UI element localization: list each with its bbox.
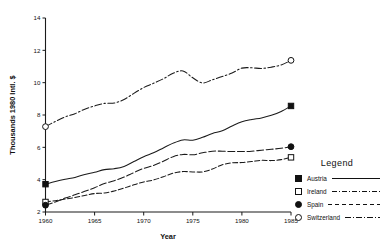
x-tick-label: 1970 xyxy=(137,217,151,224)
y-tick-label: 12 xyxy=(34,47,41,54)
chart-axes xyxy=(46,18,292,212)
legend-item-switzerland[interactable]: Switzerland xyxy=(294,211,380,224)
marker-austria-end xyxy=(288,103,293,108)
y-axis-title: Thousands 1980 Intl. $ xyxy=(8,75,17,154)
y-tick-label: 4 xyxy=(37,176,41,183)
marker-switzerland-start xyxy=(43,124,49,130)
chart-container: 2468101214 196019651970197519801985 Thou… xyxy=(0,0,380,245)
open-circle-icon xyxy=(295,214,302,221)
filled-square-icon xyxy=(295,175,302,182)
y-tick-label: 6 xyxy=(37,144,41,151)
y-tick-label: 2 xyxy=(37,208,41,215)
filled-circle-icon xyxy=(295,201,302,208)
legend-marker-icon xyxy=(294,188,303,195)
legend-line-sample xyxy=(332,178,380,179)
series-line-switzerland xyxy=(46,60,292,126)
marker-switzerland-end xyxy=(288,57,294,63)
legend-item-label: Spain xyxy=(307,201,323,208)
marker-austria-start xyxy=(43,181,48,186)
legend-marker-icon xyxy=(294,175,303,182)
y-tick-label: 14 xyxy=(34,14,41,21)
marker-ireland-end xyxy=(288,155,293,160)
x-tick-label: 1980 xyxy=(235,217,249,224)
x-axis-title: Year xyxy=(160,232,176,241)
legend-item-ireland[interactable]: Ireland xyxy=(294,185,380,198)
legend-marker-icon xyxy=(294,214,303,221)
marker-spain-start xyxy=(43,202,49,208)
legend-title: Legend xyxy=(294,158,380,168)
series-line-ireland xyxy=(46,157,292,202)
chart-legend: Legend AustriaIrelandSpainSwitzerland xyxy=(294,158,380,224)
legend-item-label: Ireland xyxy=(307,188,327,195)
series-line-austria xyxy=(46,106,292,184)
legend-item-austria[interactable]: Austria xyxy=(294,172,380,185)
chart-endpoint-markers xyxy=(43,57,294,208)
legend-item-label: Austria xyxy=(307,175,327,182)
legend-marker-icon xyxy=(294,201,303,208)
legend-item-spain[interactable]: Spain xyxy=(294,198,380,211)
open-square-icon xyxy=(295,188,302,195)
legend-items: AustriaIrelandSpainSwitzerland xyxy=(294,172,380,224)
y-tick-label: 10 xyxy=(34,79,41,86)
x-axis-ticks: 196019651970197519801985 xyxy=(39,212,299,224)
x-tick-label: 1960 xyxy=(39,217,53,224)
legend-line-sample xyxy=(328,204,380,205)
legend-line-sample xyxy=(332,191,380,192)
y-tick-label: 8 xyxy=(37,111,41,118)
marker-spain-end xyxy=(288,144,294,150)
x-tick-label: 1965 xyxy=(88,217,102,224)
legend-line-sample xyxy=(345,217,380,218)
x-tick-label: 1975 xyxy=(186,217,200,224)
chart-series-group xyxy=(46,60,292,205)
legend-item-label: Switzerland xyxy=(307,214,340,221)
